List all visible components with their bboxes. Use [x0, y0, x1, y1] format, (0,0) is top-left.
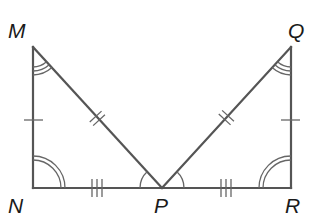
triangle-qrp — [162, 47, 291, 188]
angle-p-left-arc — [140, 172, 147, 188]
angle-r-arcs — [259, 156, 291, 188]
label-m: M — [8, 19, 26, 42]
angle-p-right-arc — [177, 172, 184, 188]
tick-marks-double — [90, 110, 234, 125]
label-r: R — [285, 194, 300, 217]
label-p: P — [154, 194, 168, 217]
segment-mp — [33, 47, 162, 188]
label-q: Q — [288, 19, 304, 42]
triangle-mnp — [33, 47, 162, 188]
label-n: N — [8, 194, 24, 217]
angle-n-arcs — [33, 156, 65, 188]
angle-marks — [33, 62, 291, 188]
congruent-triangles-diagram: M N P Q R — [0, 0, 331, 222]
segment-qp — [162, 47, 291, 188]
